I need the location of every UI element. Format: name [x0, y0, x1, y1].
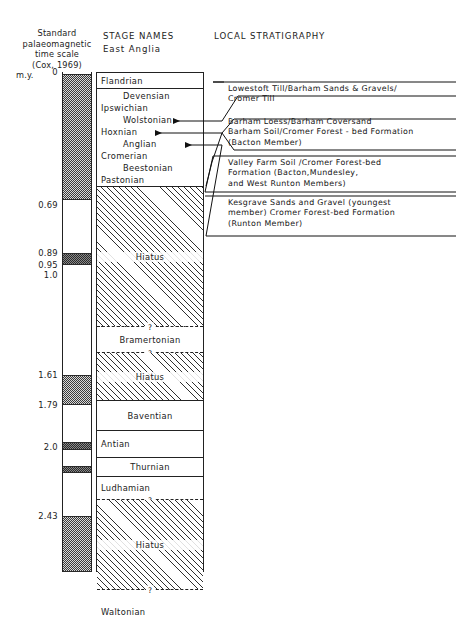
- header-line-3: time scale: [14, 49, 100, 60]
- stage-label: Hiatus: [97, 540, 203, 550]
- stage-label: Hoxnian: [101, 127, 137, 137]
- stage-names-column: FlandrianDevensianIpswichianWolstonianHo…: [96, 72, 204, 572]
- stage-label: Cromerian: [101, 151, 148, 161]
- stage-cell: Cromerian: [97, 150, 203, 162]
- axis-tick-label: 0.69: [12, 200, 58, 210]
- polarity-band-normal: [63, 466, 91, 473]
- stage-cell: Devensian: [97, 89, 203, 102]
- stage-label: Anglian: [123, 139, 157, 149]
- stage-label: Thurnian: [97, 462, 203, 472]
- stratigraphy-entry: Barham Loess/Barham Coversand Barham Soi…: [228, 117, 414, 148]
- stage-label: Bramertonian: [97, 335, 203, 345]
- stage-cell: Baventian: [97, 401, 203, 431]
- stage-cell: Flandrian: [97, 72, 203, 89]
- stage-label: Antian: [101, 439, 130, 449]
- stage-label: Hiatus: [97, 372, 203, 382]
- stage-names-subtitle: East Anglia: [103, 43, 174, 56]
- header-line-1: Standard: [14, 28, 100, 39]
- polarity-column: [62, 72, 92, 572]
- time-scale-axis: 00.690.890.951.01.611.792.02.43: [10, 72, 58, 572]
- axis-tick-label: 0: [12, 67, 58, 77]
- polarity-band-normal: [63, 253, 91, 265]
- stage-cell: Pastonian: [97, 174, 203, 187]
- stratigraphy-entry: Valley Farm Soil /Cromer Forest-bed Form…: [228, 158, 381, 189]
- axis-tick-label: 2.0: [12, 442, 58, 452]
- stage-cell: Thurnian: [97, 458, 203, 477]
- stratigraphy-entry: Kesgrave Sands and Gravel (youngest memb…: [228, 198, 395, 229]
- axis-tick-label: 1.0: [12, 270, 58, 280]
- stage-cell: Beestonian: [97, 162, 203, 174]
- stage-names-header: STAGE NAMES East Anglia: [103, 30, 174, 56]
- header-line-2: palaeomagnetic: [14, 39, 100, 50]
- stratigraphy-entry: Lowestoft Till/Barham Sands & Gravels/ C…: [228, 84, 397, 105]
- stage-cell: Hiatus: [97, 500, 203, 590]
- polarity-band-normal: [63, 74, 91, 200]
- stage-label: Ipswichian: [101, 103, 148, 113]
- axis-tick-label: 0.89: [12, 248, 58, 258]
- polarity-band-normal: [63, 442, 91, 450]
- stage-cell: Hiatus: [97, 187, 203, 327]
- stage-label: Pastonian: [101, 175, 144, 185]
- axis-tick-label: 1.79: [12, 400, 58, 410]
- polarity-band-normal: [63, 375, 91, 405]
- polarity-band-normal: [63, 516, 91, 572]
- axis-tick-label: 1.61: [12, 370, 58, 380]
- stage-cell: Hoxnian: [97, 126, 203, 138]
- stage-cell: Wolstonian: [97, 114, 203, 126]
- stage-label: Ludhamian: [101, 483, 150, 493]
- stage-label: Hiatus: [97, 252, 203, 262]
- stage-label: Baventian: [97, 411, 203, 421]
- axis-tick-label: 2.43: [12, 511, 58, 521]
- local-stratigraphy-header: LOCAL STRATIGRAPHY: [214, 31, 325, 41]
- stage-cell: Ipswichian: [97, 102, 203, 114]
- stage-cell: Anglian: [97, 138, 203, 150]
- stage-names-title: STAGE NAMES: [103, 30, 174, 43]
- stage-cell: Waltonian: [97, 590, 203, 619]
- stage-label: Wolstonian: [123, 115, 172, 125]
- stage-cell: Hiatus: [97, 353, 203, 401]
- stage-label: Beestonian: [123, 163, 173, 173]
- stage-label: Waltonian: [101, 607, 145, 617]
- stage-cell: Antian: [97, 431, 203, 458]
- stage-label: Devensian: [123, 91, 170, 101]
- axis-tick-label: 0.95: [12, 260, 58, 270]
- stage-label: Flandrian: [101, 76, 143, 86]
